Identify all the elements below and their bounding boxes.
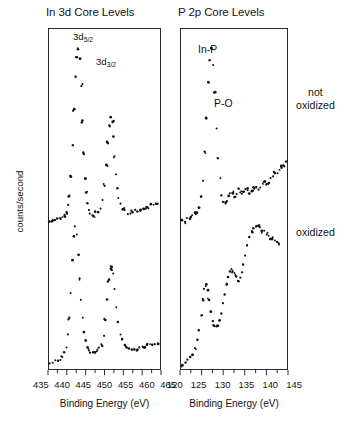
data-point (266, 234, 268, 236)
data-point (244, 254, 246, 256)
plot-area-in3d (48, 28, 161, 370)
data-point (66, 347, 68, 349)
data-point (60, 355, 62, 357)
data-point (67, 318, 69, 320)
data-point (113, 157, 115, 159)
data-point (67, 333, 69, 335)
data-point (279, 169, 281, 171)
data-point (246, 244, 248, 246)
data-point (116, 187, 118, 189)
data-point (234, 274, 236, 276)
data-point (257, 189, 259, 191)
side-label-not-oxidized: not oxidized (296, 86, 335, 112)
data-point (74, 225, 76, 227)
data-point (69, 175, 71, 177)
annotation-p-o: P-O (214, 98, 232, 109)
annotation-3d52-sub: 5/2 (84, 36, 93, 43)
data-point (232, 193, 234, 195)
data-point (219, 177, 221, 179)
data-point (191, 214, 193, 216)
data-point (259, 186, 261, 188)
x-tick-labels-in3d: 435440445450455460465 (33, 379, 176, 390)
x-tick-label: 140 (262, 379, 278, 390)
data-point (80, 85, 82, 87)
data-point (60, 218, 62, 220)
data-point (205, 152, 207, 154)
x-tick-label: 440 (54, 379, 70, 390)
data-point (255, 187, 257, 189)
data-point (277, 172, 279, 174)
data-point (98, 347, 100, 349)
data-point (63, 351, 65, 353)
data-point (103, 335, 105, 337)
data-point (77, 47, 79, 49)
data-point (82, 151, 84, 153)
data-point (106, 165, 108, 167)
data-point (239, 277, 241, 279)
data-point (134, 209, 136, 211)
x-tick-label: 450 (97, 379, 113, 390)
data-point (120, 334, 122, 336)
data-point (73, 235, 76, 238)
data-point (149, 203, 152, 206)
data-point (283, 165, 285, 167)
data-point (216, 127, 218, 129)
data-point (89, 352, 91, 354)
data-point (48, 362, 50, 364)
x-tick-label: 135 (239, 379, 255, 390)
data-point (70, 292, 72, 294)
x-tick-label: 125 (191, 379, 207, 390)
data-point (267, 183, 269, 185)
data-point (209, 310, 212, 313)
data-point (242, 191, 244, 193)
annotation-in-p: In-P (198, 44, 217, 55)
data-point (241, 193, 243, 195)
data-point (115, 173, 117, 175)
data-point (157, 342, 159, 344)
x-tick-label: 120 (167, 379, 183, 390)
data-point (272, 175, 274, 177)
data-point (205, 116, 207, 118)
data-point (242, 263, 244, 266)
data-point (88, 209, 90, 211)
data-point (200, 196, 202, 198)
data-point (136, 210, 138, 213)
data-point (218, 319, 221, 322)
data-point (147, 206, 149, 208)
data-point (106, 298, 109, 301)
data-point (63, 214, 65, 216)
data-point (208, 59, 210, 61)
annotation-3d52-base: 3d (73, 31, 84, 42)
data-point (280, 167, 282, 169)
data-point (244, 188, 246, 190)
data-point (89, 213, 91, 215)
data-point (198, 206, 201, 209)
data-point (181, 219, 183, 221)
data-point (223, 293, 225, 295)
data-point (128, 347, 131, 350)
xps-figure: In 3d Core Levels P 2p Core Levels count… (0, 0, 341, 435)
x-tick-label: 435 (33, 379, 49, 390)
data-point (207, 289, 210, 292)
data-point (66, 213, 68, 215)
data-point (273, 171, 275, 173)
side-label-not-oxidized-line2: oxidized (296, 99, 335, 112)
data-point (124, 209, 126, 211)
x-axis-label-p2p: Binding Energy (eV) (180, 398, 288, 409)
data-point (106, 140, 108, 143)
data-point (84, 339, 87, 342)
data-point (149, 343, 151, 345)
data-point (285, 160, 287, 163)
data-point (123, 207, 125, 209)
data-point (240, 190, 242, 192)
x-tick-labels-p2p: 120125130135140145 (167, 379, 302, 390)
data-point (263, 230, 265, 232)
data-point (207, 81, 209, 83)
annotation-3d32-base: 3d (96, 56, 107, 67)
data-point (202, 180, 204, 182)
data-point (81, 121, 83, 123)
data-point (100, 208, 102, 210)
data-point (248, 192, 251, 195)
x-tick-label: 445 (75, 379, 91, 390)
data-point (231, 271, 233, 273)
